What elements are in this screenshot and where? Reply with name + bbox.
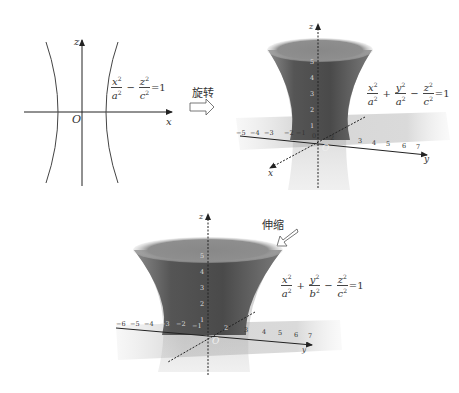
z-axis-label: z	[74, 36, 79, 47]
equation-hyperbola: x2a2 − z2c2 =1	[110, 74, 166, 101]
stretch-label: 伸缩	[262, 216, 284, 232]
y-axis-label: y	[302, 346, 306, 354]
z-axis-label: z	[309, 22, 313, 31]
origin-label: O	[212, 336, 219, 346]
rotate-arrow-icon	[190, 99, 214, 115]
x-axis-label: x	[268, 168, 273, 178]
x-axis-label: x	[166, 116, 172, 127]
hyperboloid-rim	[267, 38, 373, 62]
y-axis-label: y	[424, 154, 429, 164]
origin-label: O	[72, 113, 81, 126]
origin-label: O	[322, 143, 329, 153]
equation-hyperboloid-elliptic: x2a2 + y2b2 − z2c2 =1	[280, 272, 364, 299]
diagram-canvas	[0, 0, 459, 393]
hyperbola-2d-plot	[24, 40, 172, 186]
equation-hyperboloid-circular: x2a2 + y2a2 − z2c2 =1	[366, 80, 450, 107]
z-axis-label: z	[199, 212, 203, 221]
hyperboloid-rotated-3d	[236, 24, 450, 190]
rotate-label: 旋转	[192, 84, 214, 100]
